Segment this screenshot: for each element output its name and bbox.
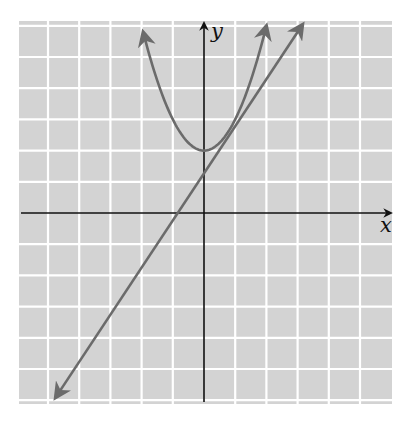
- x-axis-label: x: [380, 213, 392, 237]
- graph: x y: [0, 0, 408, 426]
- y-axis-label: y: [210, 19, 224, 43]
